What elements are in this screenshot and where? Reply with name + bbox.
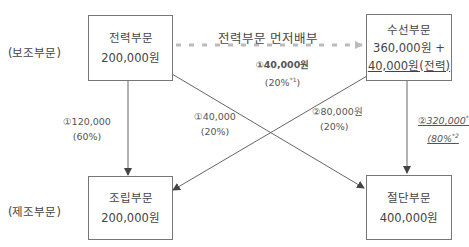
cutting-dept-box: 절단부문 400,000원 xyxy=(366,175,452,240)
repair-to-assembly-amount: ②80,000원 xyxy=(312,104,367,119)
assembly-dept-amount: 200,000원 xyxy=(101,208,160,228)
electric-to-repair-pct: (20%*1) xyxy=(245,72,320,90)
support-dept-label: (보조부문) xyxy=(8,44,61,60)
electric-dept-name: 전력부문 xyxy=(109,28,153,48)
repair-dept-extra: 40,000원(전력) xyxy=(368,57,450,75)
assembly-dept-name: 조립부문 xyxy=(109,188,153,208)
electric-to-cutting-pct: (20%) xyxy=(185,124,245,139)
production-dept-label: (제조부문) xyxy=(8,203,61,219)
repair-dept-amount: 360,000원 + xyxy=(373,39,445,57)
priority-allocation-title: 전력부문 먼저배부 xyxy=(218,28,318,47)
repair-to-cutting-amount: ②320,000*3 xyxy=(418,110,468,128)
electric-to-assembly-label: ①120,000 (60%) xyxy=(52,114,122,144)
electric-to-repair-label: ①40,000원 (20%*1) xyxy=(245,57,320,90)
cutting-dept-name: 절단부문 xyxy=(387,188,431,208)
repair-dept-box: 수선부문 360,000원 + 40,000원(전력) xyxy=(366,14,452,81)
electric-dept-amount: 200,000원 xyxy=(101,48,160,68)
electric-dept-box: 전력부문 200,000원 xyxy=(88,15,173,81)
electric-to-assembly-amount: ①120,000 xyxy=(52,114,122,129)
repair-to-cutting-pct: (80%*2 xyxy=(418,128,468,146)
electric-to-cutting-label: ①40,000 (20%) xyxy=(185,109,245,139)
assembly-dept-box: 조립부문 200,000원 xyxy=(88,176,173,240)
cutting-dept-amount: 400,000원 xyxy=(380,208,439,228)
repair-to-assembly-pct: (20%) xyxy=(312,119,367,134)
repair-to-cutting-label: ②320,000*3 (80%*2 xyxy=(418,110,468,146)
electric-to-repair-amount: ①40,000원 xyxy=(245,57,320,72)
repair-to-assembly-label: ②80,000원 (20%) xyxy=(312,104,367,134)
electric-to-cutting-amount: ①40,000 xyxy=(185,109,245,124)
electric-to-assembly-pct: (60%) xyxy=(52,129,122,144)
repair-dept-name: 수선부문 xyxy=(387,21,431,39)
